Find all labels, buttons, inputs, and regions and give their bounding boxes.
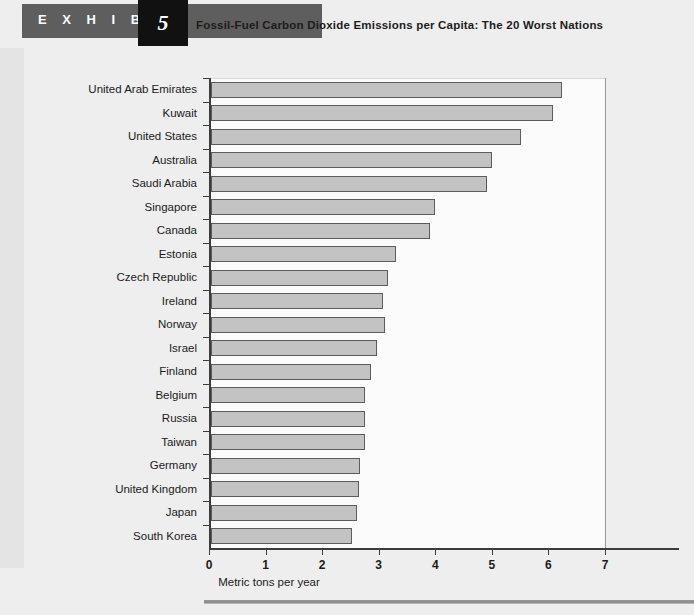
x-axis-tick-label: 3 <box>364 558 394 572</box>
bar <box>211 246 396 262</box>
x-axis-tick-label: 1 <box>251 558 281 572</box>
x-axis-tick <box>266 548 267 555</box>
bar-category-label: Australia <box>152 149 197 173</box>
y-axis-tick <box>203 78 210 79</box>
x-axis-tick-label: 2 <box>307 558 337 572</box>
bar-row: Belgium <box>0 384 694 408</box>
x-axis-tick <box>605 548 606 555</box>
y-axis-tick <box>203 290 210 291</box>
bar <box>211 387 365 403</box>
y-axis-tick <box>203 360 210 361</box>
bar <box>211 176 487 192</box>
y-axis-tick <box>203 172 210 173</box>
bar-category-label: Japan <box>166 501 197 525</box>
bar-row: Ireland <box>0 290 694 314</box>
bar-row: Germany <box>0 454 694 478</box>
bar-row: United States <box>0 125 694 149</box>
exhibit-number-box: 5 <box>138 0 188 46</box>
x-axis-tick <box>548 548 549 555</box>
bar-row: Taiwan <box>0 431 694 455</box>
bar <box>211 481 359 497</box>
bar <box>211 293 383 309</box>
footer-rule <box>204 600 694 604</box>
y-axis-tick <box>203 196 210 197</box>
x-axis-title: Metric tons per year <box>0 576 694 588</box>
bar-row: Norway <box>0 313 694 337</box>
bar-category-label: Germany <box>150 454 197 478</box>
x-axis-tick <box>322 548 323 555</box>
bar-row: United Kingdom <box>0 478 694 502</box>
bar-category-label: Saudi Arabia <box>132 172 197 196</box>
bar-row: Japan <box>0 501 694 525</box>
bar-row: Czech Republic <box>0 266 694 290</box>
bar <box>211 270 388 286</box>
bar-category-label: Norway <box>158 313 197 337</box>
bar-category-label: Taiwan <box>161 431 197 455</box>
bar <box>211 340 377 356</box>
x-axis-title-text: Metric tons per year <box>218 576 320 588</box>
bar <box>211 528 352 544</box>
exhibit-title: Fossil-Fuel Carbon Dioxide Emissions per… <box>196 19 603 31</box>
bar <box>211 223 430 239</box>
bar-row: Kuwait <box>0 102 694 126</box>
x-axis-tick-label: 6 <box>533 558 563 572</box>
bar-category-label: United States <box>128 125 197 149</box>
bar-row: Finland <box>0 360 694 384</box>
x-axis-tick-label: 7 <box>590 558 620 572</box>
x-axis-tick-label: 4 <box>420 558 450 572</box>
bar-category-label: Finland <box>159 360 197 384</box>
bar-row: Australia <box>0 149 694 173</box>
y-axis-tick <box>203 337 210 338</box>
x-axis-tick-label: 0 <box>194 558 224 572</box>
y-axis-tick <box>203 454 210 455</box>
y-axis-tick <box>203 431 210 432</box>
bar <box>211 434 365 450</box>
bar-row: Russia <box>0 407 694 431</box>
bar <box>211 317 385 333</box>
bar-chart: United Arab EmiratesKuwaitUnited StatesA… <box>0 60 694 570</box>
bar-category-label: Czech Republic <box>116 266 197 290</box>
y-axis-tick <box>203 243 210 244</box>
bar-category-label: Israel <box>169 337 197 361</box>
bar <box>211 129 521 145</box>
bar <box>211 152 492 168</box>
y-axis-tick <box>203 125 210 126</box>
bar-row: South Korea <box>0 525 694 549</box>
bar-category-label: Kuwait <box>162 102 197 126</box>
y-axis-tick <box>203 266 210 267</box>
x-axis-tick <box>209 548 210 555</box>
y-axis-tick <box>203 102 210 103</box>
bar-category-label: United Arab Emirates <box>88 78 197 102</box>
bar-row: United Arab Emirates <box>0 78 694 102</box>
x-axis-tick <box>379 548 380 555</box>
x-axis-tick <box>492 548 493 555</box>
bar-row: Singapore <box>0 196 694 220</box>
bar <box>211 505 357 521</box>
bar-row: Israel <box>0 337 694 361</box>
bar-category-label: Canada <box>157 219 197 243</box>
bar-category-label: Singapore <box>145 196 197 220</box>
bar-category-label: Russia <box>162 407 197 431</box>
y-axis-tick <box>203 313 210 314</box>
bar-category-label: South Korea <box>133 525 197 549</box>
bar-rows: United Arab EmiratesKuwaitUnited StatesA… <box>0 78 694 548</box>
y-axis-tick <box>203 149 210 150</box>
bar-category-label: United Kingdom <box>115 478 197 502</box>
bar-category-label: Ireland <box>162 290 197 314</box>
y-axis-tick <box>203 407 210 408</box>
y-axis-tick <box>203 501 210 502</box>
bar <box>211 458 360 474</box>
bar-row: Estonia <box>0 243 694 267</box>
y-axis-tick <box>203 384 210 385</box>
bar <box>211 105 553 121</box>
y-axis-tick <box>203 525 210 526</box>
bar-row: Saudi Arabia <box>0 172 694 196</box>
bar-category-label: Belgium <box>155 384 197 408</box>
bar <box>211 82 562 98</box>
x-axis-tick-label: 5 <box>477 558 507 572</box>
bar-row: Canada <box>0 219 694 243</box>
y-axis-tick <box>203 219 210 220</box>
exhibit-number: 5 <box>138 0 188 46</box>
bar <box>211 364 371 380</box>
bar <box>211 411 365 427</box>
